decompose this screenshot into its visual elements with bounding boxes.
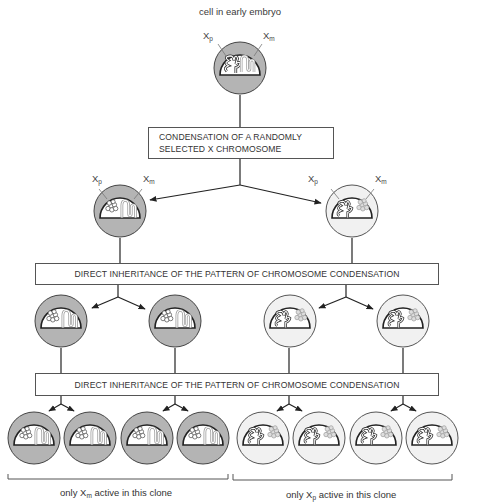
label-xm-root: Xm xyxy=(263,30,275,42)
label-xm-right: Xm xyxy=(375,173,387,185)
label-xm-left: Xm xyxy=(143,173,155,185)
level4-cell-5 xyxy=(237,412,289,464)
level4-cell-8 xyxy=(406,412,458,464)
diagram-title: cell in early embryo xyxy=(0,6,477,17)
level2-cell-right xyxy=(326,185,378,237)
level4-cell-2 xyxy=(64,412,116,464)
level4-cell-7 xyxy=(350,412,402,464)
x-inactivation-diagram: cell in early embryo Xp Xm Xp Xm Xp Xm C… xyxy=(0,0,477,504)
level3-cell-2 xyxy=(149,295,201,347)
diagram-graphics xyxy=(0,0,477,504)
level2-cell-left xyxy=(94,185,146,237)
label-xp-left: Xp xyxy=(92,173,102,185)
label-xp-root: Xp xyxy=(203,30,213,42)
level4-cell-3 xyxy=(121,412,173,464)
label-xp-right: Xp xyxy=(308,173,318,185)
level4-cell-6 xyxy=(293,412,345,464)
caption-xp-clone: only Xp active in this clone xyxy=(286,489,396,501)
caption-xm-clone: only Xm active in this clone xyxy=(60,487,172,499)
condensation-step-box: CONDENSATION OF A RANDOMLY SELECTED X CH… xyxy=(148,127,334,159)
inheritance-step-box-1: DIRECT INHERITANCE OF THE PATTERN OF CHR… xyxy=(35,263,439,285)
root-cell xyxy=(214,42,266,94)
inheritance-step-box-2: DIRECT INHERITANCE OF THE PATTERN OF CHR… xyxy=(35,373,439,396)
level3-cell-4 xyxy=(377,295,429,347)
level4-cell-1 xyxy=(8,412,60,464)
level4-cell-4 xyxy=(177,412,229,464)
level3-cell-3 xyxy=(264,295,316,347)
level3-cell-1 xyxy=(35,295,87,347)
clone-brackets xyxy=(8,474,452,480)
